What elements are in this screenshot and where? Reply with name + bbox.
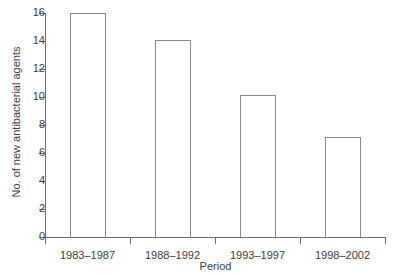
y-tick-group-4: 4 xyxy=(0,181,45,182)
y-tick-group-0: 0 xyxy=(0,237,45,238)
bar-1998-2002 xyxy=(325,137,361,238)
x-tick-mark xyxy=(45,238,46,244)
y-tick-group-10: 10 xyxy=(0,97,45,98)
x-tick-mark xyxy=(130,238,131,244)
x-tick-mark xyxy=(385,238,386,244)
y-tick-label: 10 xyxy=(19,91,45,102)
x-tick-mark xyxy=(215,238,216,244)
y-axis-line xyxy=(45,13,46,238)
y-tick-label: 6 xyxy=(19,147,45,158)
y-tick-label: 16 xyxy=(19,7,45,18)
x-axis-title: Period xyxy=(45,260,386,272)
plot-area: No. of new antibacterial agents 0 2 4 6 … xyxy=(0,0,412,275)
y-tick-group-8: 8 xyxy=(0,125,45,126)
y-tick-group-12: 12 xyxy=(0,69,45,70)
y-tick-group-2: 2 xyxy=(0,209,45,210)
y-tick-label: 0 xyxy=(19,231,45,242)
y-tick-label: 8 xyxy=(19,119,45,130)
y-tick-label: 2 xyxy=(19,203,45,214)
y-tick-label: 14 xyxy=(19,35,45,46)
bar-1983-1987 xyxy=(70,13,106,238)
bar-1988-1992 xyxy=(155,40,191,238)
y-tick-label: 4 xyxy=(19,175,45,186)
y-tick-group-16: 16 xyxy=(0,13,45,14)
y-tick-group-6: 6 xyxy=(0,153,45,154)
y-tick-label: 12 xyxy=(19,63,45,74)
y-tick-group-14: 14 xyxy=(0,41,45,42)
bar-1993-1997 xyxy=(240,95,276,238)
bar-chart-figure: No. of new antibacterial agents 0 2 4 6 … xyxy=(0,0,412,275)
x-tick-mark xyxy=(300,238,301,244)
